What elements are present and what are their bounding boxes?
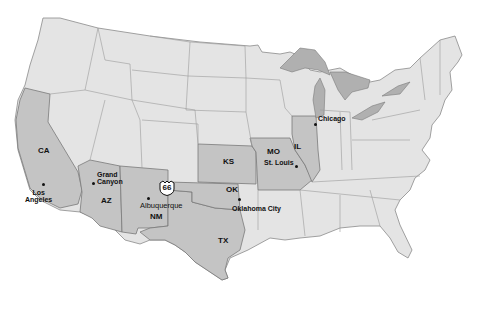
label-tx: TX [218,237,228,245]
label-chicago: Chicago [318,115,346,122]
label-ks: KS [223,158,234,166]
label-az: AZ [101,197,112,205]
city-dot-albuquerque [147,197,150,200]
label-nm: NM [150,213,162,221]
label-oklahoma-city: Oklahoma City [232,205,281,212]
label-los-angeles: Los Angeles [25,189,52,204]
city-dot-los-angeles [42,183,45,186]
label-il: IL [294,143,301,151]
label-ok: OK [226,186,238,194]
label-st-louis: St. Louis [264,159,294,166]
route-66-number: 66 [159,184,175,192]
state-nm [120,166,168,234]
city-dot-chicago [314,123,317,126]
city-dot-oklahoma-city [238,198,241,201]
us-map [0,0,491,314]
label-grand-canyon: Grand Canyon [97,171,123,186]
city-dot-grand-canyon [92,182,95,185]
route-66-shield-icon: 66 [159,180,175,196]
city-dot-st-louis [295,165,298,168]
label-albuquerque: Albuquerque [140,202,183,210]
label-mo: MO [267,148,280,156]
label-ca: CA [38,147,50,155]
